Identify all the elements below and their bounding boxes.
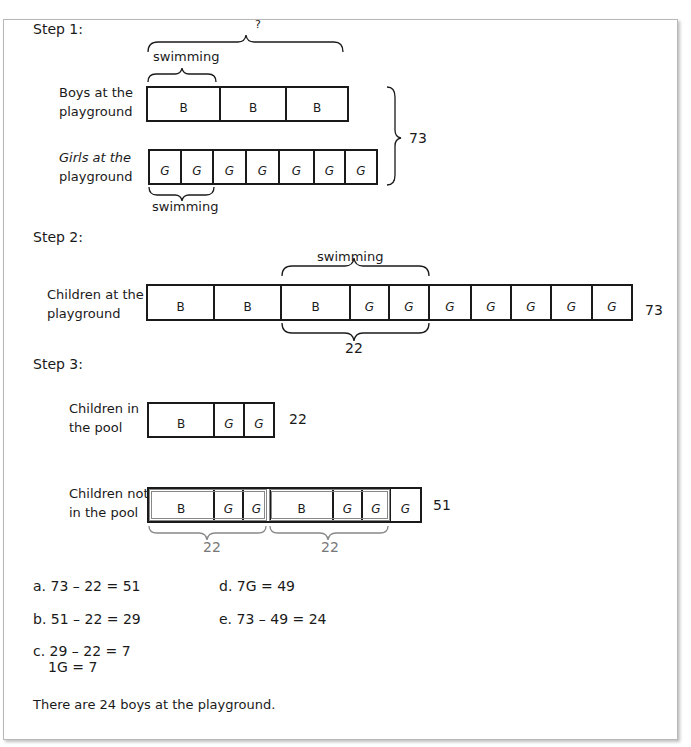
equation-c-line2: 1G = 7 [48, 659, 97, 675]
group1-total: 22 [203, 539, 221, 555]
step3-braces [0, 0, 691, 747]
equation-d: d. 7G = 49 [219, 578, 295, 594]
group2-total: 22 [321, 539, 339, 555]
conclusion-text: There are 24 boys at the playground. [33, 697, 275, 712]
equation-e: e. 73 – 49 = 24 [219, 611, 327, 627]
equation-b: b. 51 – 22 = 29 [33, 611, 141, 627]
equation-c-line1: c. 29 – 22 = 7 [33, 643, 131, 659]
equation-a: a. 73 – 22 = 51 [33, 578, 140, 594]
